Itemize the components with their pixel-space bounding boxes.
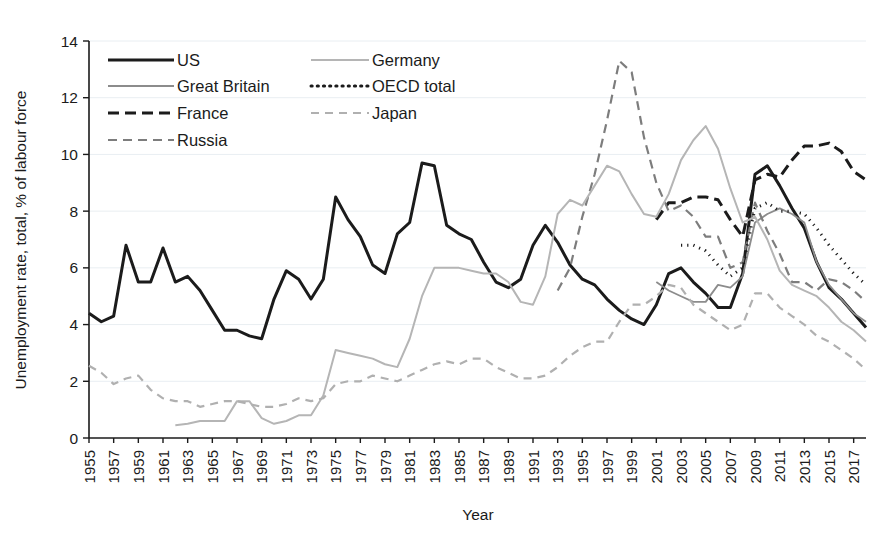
- x-tick-label: 1965: [204, 450, 221, 483]
- x-tick-label: 1995: [574, 450, 591, 483]
- x-tick-label: 1957: [105, 450, 122, 483]
- x-tick-label: 2015: [821, 450, 838, 483]
- legend-label-oecd-total: OECD total: [372, 77, 455, 95]
- y-tick-label: 6: [69, 259, 78, 276]
- y-axis-label: Unemployment rate, total, % of labour fo…: [12, 91, 29, 390]
- y-tick-label: 4: [69, 316, 78, 333]
- x-tick-label: 1991: [525, 450, 542, 483]
- x-tick-label: 1977: [352, 450, 369, 483]
- x-tick-label: 1981: [401, 450, 418, 483]
- x-tick-label: 2011: [771, 450, 788, 482]
- x-tick-label: 2003: [673, 450, 690, 483]
- x-tick-label: 1967: [229, 450, 246, 483]
- x-tick-label: 1975: [327, 450, 344, 483]
- x-tick-label: 1963: [179, 450, 196, 483]
- y-tick-label: 8: [69, 203, 78, 220]
- legend-label-russia: Russia: [177, 131, 228, 149]
- x-tick-label: 1993: [549, 450, 566, 483]
- x-tick-label: 1987: [475, 450, 492, 483]
- y-tick-label: 12: [61, 89, 78, 106]
- x-tick-label: 1971: [278, 450, 295, 483]
- x-tick-label: 1979: [377, 450, 394, 483]
- x-tick-label: 1997: [599, 450, 616, 483]
- x-tick-label: 1973: [303, 450, 320, 483]
- x-tick-label: 2009: [747, 450, 764, 483]
- legend-label-france: France: [177, 104, 228, 122]
- x-tick-label: 1983: [426, 450, 443, 483]
- x-tick-label: 1985: [451, 450, 468, 483]
- x-tick-label: 1989: [500, 450, 517, 483]
- x-tick-label: 1961: [155, 450, 172, 483]
- x-tick-label: 2005: [697, 450, 714, 483]
- y-tick-label: 0: [69, 430, 78, 447]
- x-tick-label: 2017: [845, 450, 862, 483]
- y-tick-label: 14: [61, 33, 79, 50]
- y-tick-label: 2: [69, 373, 78, 390]
- legend-label-japan: Japan: [372, 104, 417, 122]
- x-axis-label: Year: [462, 506, 493, 523]
- x-tick-label: 1969: [253, 450, 270, 483]
- x-tick-label: 1955: [81, 450, 98, 483]
- x-tick-label: 1999: [623, 450, 640, 483]
- legend-label-germany: Germany: [372, 51, 441, 69]
- x-tick-label: 2001: [648, 450, 665, 483]
- x-tick-label: 2007: [722, 450, 739, 483]
- legend-label-great-britain: Great Britain: [177, 77, 270, 95]
- unemployment-rate-line-chart: 02468101214 1955195719591961196319651967…: [0, 0, 892, 533]
- legend-label-us: US: [177, 51, 200, 69]
- x-tick-label: 2013: [796, 450, 813, 483]
- x-tick-label: 1959: [130, 450, 147, 483]
- y-tick-label: 10: [61, 146, 79, 163]
- chart-figure: 02468101214 1955195719591961196319651967…: [0, 0, 892, 533]
